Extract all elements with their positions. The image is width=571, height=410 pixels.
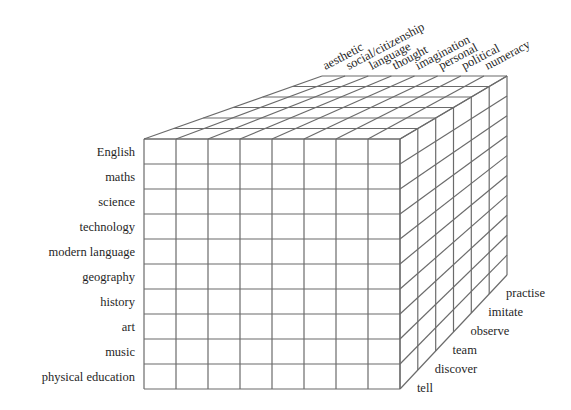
- subject-label: modern language: [49, 245, 136, 259]
- method-label: practise: [506, 286, 545, 300]
- subject-label: maths: [105, 170, 135, 184]
- subject-label: technology: [79, 220, 135, 234]
- subject-label: music: [105, 345, 135, 359]
- method-label: team: [453, 343, 478, 357]
- subject-label: English: [97, 145, 136, 159]
- curriculum-cube-diagram: Englishmathssciencetechnologymodern lang…: [0, 0, 571, 410]
- subject-label: history: [100, 295, 135, 309]
- subject-label: physical education: [42, 370, 136, 384]
- subject-label: science: [98, 195, 135, 209]
- method-label: tell: [417, 381, 433, 395]
- subject-label: art: [122, 320, 136, 334]
- method-label: observe: [470, 324, 509, 338]
- method-label: discover: [435, 362, 478, 376]
- subject-label: geography: [82, 270, 136, 284]
- method-label: imitate: [488, 305, 523, 319]
- forms-of-understanding-labels: aestheticsocial/citizenshiplanguagethoug…: [320, 20, 533, 73]
- subject-labels: Englishmathssciencetechnologymodern lang…: [42, 145, 136, 384]
